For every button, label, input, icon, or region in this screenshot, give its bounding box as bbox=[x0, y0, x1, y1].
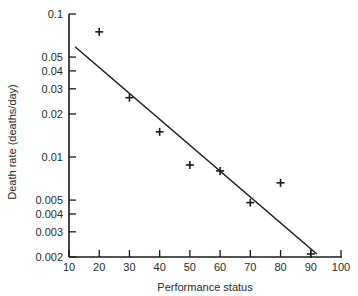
y-axis-title: Death rate (deaths/day) bbox=[6, 84, 18, 200]
y-tick-label: 0.002 bbox=[35, 251, 63, 263]
x-tick-label: 20 bbox=[93, 261, 105, 273]
x-tick-label: 30 bbox=[123, 261, 135, 273]
axes bbox=[69, 14, 342, 257]
x-tick-label: 80 bbox=[274, 261, 286, 273]
y-tick-label: 0.1 bbox=[48, 8, 63, 20]
y-tick-label: 0.03 bbox=[42, 83, 63, 95]
x-tick-label: 70 bbox=[244, 261, 256, 273]
plus-marker-icon bbox=[277, 179, 285, 187]
regression-line bbox=[75, 47, 317, 254]
x-tick-label: 10 bbox=[63, 261, 75, 273]
y-tick-label: 0.01 bbox=[42, 151, 63, 163]
regression-line-segment bbox=[75, 47, 317, 254]
y-tick-label: 0.005 bbox=[35, 194, 63, 206]
x-tick-label: 100 bbox=[332, 261, 350, 273]
chart: 0.10.050.040.030.020.010.0050.0040.0030.… bbox=[0, 0, 358, 296]
y-tick-label: 0.003 bbox=[35, 226, 63, 238]
plus-marker-icon bbox=[186, 161, 194, 169]
plus-marker-icon bbox=[95, 28, 103, 36]
y-tick-label: 0.05 bbox=[42, 51, 63, 63]
x-tick-label: 40 bbox=[154, 261, 166, 273]
x-tick-label: 50 bbox=[184, 261, 196, 273]
x-tick-label: 60 bbox=[214, 261, 226, 273]
y-tick-label: 0.04 bbox=[42, 65, 63, 77]
plus-marker-icon bbox=[156, 128, 164, 136]
x-axis-title: Performance status bbox=[157, 281, 253, 293]
x-tick-label: 90 bbox=[305, 261, 317, 273]
y-tick-label: 0.02 bbox=[42, 108, 63, 120]
y-axis-ticks: 0.10.050.040.030.020.010.0050.0040.0030.… bbox=[35, 8, 76, 263]
y-tick-label: 0.004 bbox=[35, 208, 63, 220]
